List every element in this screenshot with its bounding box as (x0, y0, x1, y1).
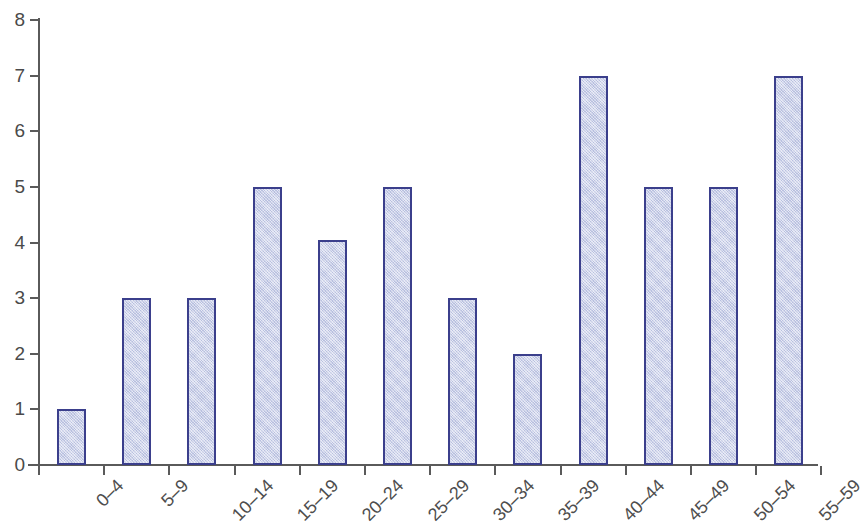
x-axis-tick (299, 466, 301, 475)
x-axis-tick-label: 5–9 (157, 476, 191, 510)
x-axis-tick (103, 466, 105, 475)
y-axis-tick (30, 297, 39, 299)
y-axis-tick-label: 0 (0, 455, 25, 474)
y-axis-tick (30, 19, 39, 21)
bar (318, 240, 347, 465)
bar (774, 76, 803, 465)
bar (187, 298, 216, 465)
x-axis-tick (625, 466, 627, 475)
y-axis-tick (30, 186, 39, 188)
bar (122, 298, 151, 465)
x-axis-tick (820, 466, 822, 475)
x-axis-tick (690, 466, 692, 475)
y-axis-tick-label: 7 (0, 66, 25, 85)
x-axis-tick-label: 0–4 (92, 476, 126, 510)
x-axis-tick-label: 30–34 (489, 476, 537, 524)
x-axis-tick-label: 20–24 (359, 476, 407, 524)
y-axis-tick-label: 6 (0, 121, 25, 140)
bar (709, 187, 738, 465)
bar (383, 187, 412, 465)
x-axis-tick-label: 25–29 (424, 476, 472, 524)
x-axis-tick (755, 466, 757, 475)
y-axis-tick-label: 3 (0, 288, 25, 307)
bar (579, 76, 608, 465)
x-axis-tick-label: 45–49 (685, 476, 733, 524)
x-axis-tick (234, 466, 236, 475)
y-axis-tick-label: 4 (0, 233, 25, 252)
x-axis-tick-label: 55–59 (815, 476, 863, 524)
y-axis-tick-label: 8 (0, 10, 25, 29)
x-axis-tick (494, 466, 496, 475)
x-axis-tick-label: 15–19 (294, 476, 342, 524)
x-axis-tick-label: 50–54 (750, 476, 798, 524)
x-axis-tick (429, 466, 431, 475)
x-axis-tick-label: 10–14 (229, 476, 277, 524)
y-axis-tick-label: 2 (0, 344, 25, 363)
y-axis-tick (30, 242, 39, 244)
x-axis-tick (168, 466, 170, 475)
x-axis-tick (38, 466, 40, 475)
x-axis-tick (364, 466, 366, 475)
y-axis-tick (30, 353, 39, 355)
bar (57, 409, 86, 465)
x-axis-tick-label: 35–39 (555, 476, 603, 524)
x-axis-tick (560, 466, 562, 475)
bar (448, 298, 477, 465)
y-axis-tick-label: 5 (0, 177, 25, 196)
y-axis-tick (30, 130, 39, 132)
y-axis-tick (30, 408, 39, 410)
y-axis-tick (30, 75, 39, 77)
y-axis-tick-label: 1 (0, 399, 25, 418)
bar (644, 187, 673, 465)
bar (513, 354, 542, 465)
bar (253, 187, 282, 465)
x-axis-tick-label: 40–44 (620, 476, 668, 524)
